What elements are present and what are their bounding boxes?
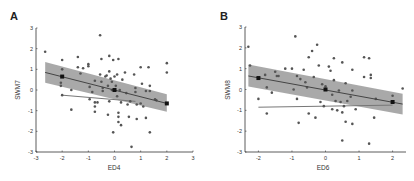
data-point — [373, 116, 376, 119]
x-tick-label: -1 — [86, 155, 91, 161]
data-point — [77, 56, 80, 59]
data-point — [70, 108, 73, 111]
data-point — [314, 116, 317, 119]
data-point — [91, 91, 94, 94]
data-point — [99, 34, 102, 37]
data-point — [117, 111, 120, 114]
data-point — [297, 122, 300, 125]
y-tick-label: 2 — [239, 45, 242, 51]
data-point — [344, 120, 347, 123]
data-point — [133, 73, 136, 76]
highlight-marker — [324, 88, 328, 92]
y-tick-label: 1 — [239, 66, 242, 72]
data-point — [271, 91, 274, 94]
data-point — [341, 61, 344, 64]
y-tick-label: 3 — [239, 24, 242, 30]
y-tick-label: 0 — [30, 87, 33, 93]
data-point — [111, 80, 114, 83]
data-point — [88, 98, 91, 101]
x-tick-label: -2 — [256, 155, 261, 161]
data-point — [328, 65, 331, 68]
highlight-marker — [165, 101, 169, 105]
data-point — [331, 93, 334, 96]
data-point — [296, 75, 299, 78]
data-point — [94, 110, 97, 113]
data-point — [339, 101, 342, 104]
x-tick-label: 3 — [191, 155, 194, 161]
y-tick-label: 0 — [239, 87, 242, 93]
y-tick-label: -1 — [237, 107, 242, 113]
data-point — [319, 101, 322, 104]
data-point — [307, 56, 310, 59]
data-point — [363, 56, 366, 59]
panel-a-letter: A — [10, 10, 18, 22]
data-point — [302, 68, 305, 71]
figure: A -3-2-10123-3-2-10123 ED4 SWM7 B -2-101… — [0, 0, 414, 181]
data-point — [341, 111, 344, 114]
data-point — [338, 89, 341, 92]
data-point — [166, 62, 169, 65]
data-point — [44, 50, 47, 53]
data-point — [266, 112, 269, 115]
data-point — [321, 83, 324, 86]
panel-a-plot-area: -3-2-10123-3-2-10123 — [28, 25, 194, 161]
data-point — [149, 90, 152, 93]
x-tick-label: 0 — [113, 155, 116, 161]
data-point — [101, 90, 104, 93]
data-point — [333, 57, 336, 60]
data-point — [120, 124, 123, 127]
data-point — [120, 101, 123, 104]
data-point — [341, 139, 344, 142]
data-point — [135, 103, 138, 106]
data-point — [108, 100, 111, 103]
panel-b-scatter: B -2-1012-3-2-10123 ED6 SWM8 — [220, 10, 406, 171]
data-point — [296, 98, 299, 101]
data-point — [369, 77, 372, 80]
data-point — [107, 114, 110, 117]
highlight-marker — [60, 75, 64, 79]
data-point — [249, 64, 252, 67]
data-point — [139, 66, 142, 69]
data-point — [307, 112, 310, 115]
data-point — [112, 131, 115, 134]
data-point — [112, 59, 115, 62]
x-tick-label: 2 — [391, 155, 394, 161]
data-point — [291, 67, 294, 70]
data-point — [292, 88, 295, 91]
data-point — [304, 81, 307, 84]
data-point — [124, 71, 127, 74]
data-point — [145, 90, 148, 93]
data-point — [311, 50, 314, 53]
data-point — [94, 79, 97, 82]
data-point — [77, 66, 80, 69]
data-point — [121, 78, 124, 81]
x-tick-label: -3 — [34, 155, 39, 161]
x-tick-label: 1 — [358, 155, 361, 161]
data-point — [117, 58, 120, 61]
data-point — [284, 67, 287, 70]
x-tick-label: -2 — [60, 155, 65, 161]
data-point — [264, 74, 267, 77]
highlight-marker — [113, 88, 117, 92]
data-point — [61, 68, 64, 71]
data-point — [108, 70, 111, 73]
data-point — [312, 76, 315, 79]
panel-b-letter: B — [220, 10, 228, 22]
data-point — [70, 89, 73, 92]
data-point — [336, 109, 339, 112]
data-point — [368, 57, 371, 60]
panel-a-y-axis-label: SWM7 — [14, 80, 21, 100]
data-point — [126, 103, 129, 106]
data-point — [116, 73, 119, 76]
data-point — [100, 80, 103, 83]
data-point — [391, 94, 394, 97]
data-point — [149, 85, 152, 88]
data-point — [88, 86, 91, 89]
data-point — [117, 116, 120, 119]
data-point — [141, 83, 144, 86]
data-point — [142, 105, 145, 108]
x-tick-label: 2 — [165, 155, 168, 161]
data-point — [351, 68, 354, 71]
data-point — [116, 95, 119, 98]
data-point — [324, 85, 327, 88]
